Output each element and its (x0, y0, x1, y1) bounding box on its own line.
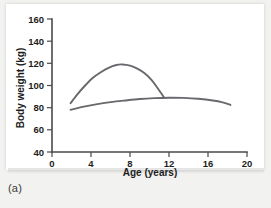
y-tick-label-60: 60 (33, 124, 44, 135)
x-tick-label-4: 4 (88, 158, 94, 169)
y-axis-title: Body weight (kg) (15, 48, 26, 129)
x-tick-label-16: 16 (203, 158, 214, 169)
y-tick-label-160: 160 (28, 14, 44, 25)
y-tick-label-120: 120 (28, 58, 44, 69)
figure-panel-a: Body weight (kg) Age (years) 160 140 120… (0, 0, 271, 208)
data-series-group (71, 64, 231, 109)
x-tick-label-12: 12 (164, 158, 175, 169)
x-tick-label-20: 20 (242, 158, 253, 169)
x-tick-label-8: 8 (127, 158, 132, 169)
series-lower-curve (71, 98, 231, 110)
y-tick-label-40: 40 (33, 147, 44, 158)
body-weight-vs-age-chart: Body weight (kg) Age (years) 160 140 120… (0, 0, 271, 208)
y-tick-label-140: 140 (28, 36, 44, 47)
figure-caption: (a) (8, 182, 22, 194)
y-axis-tick-labels: 160 140 120 100 80 60 40 (28, 14, 44, 158)
y-tick-label-80: 80 (33, 102, 44, 113)
x-tick-label-0: 0 (49, 158, 54, 169)
y-tick-label-100: 100 (28, 80, 44, 91)
